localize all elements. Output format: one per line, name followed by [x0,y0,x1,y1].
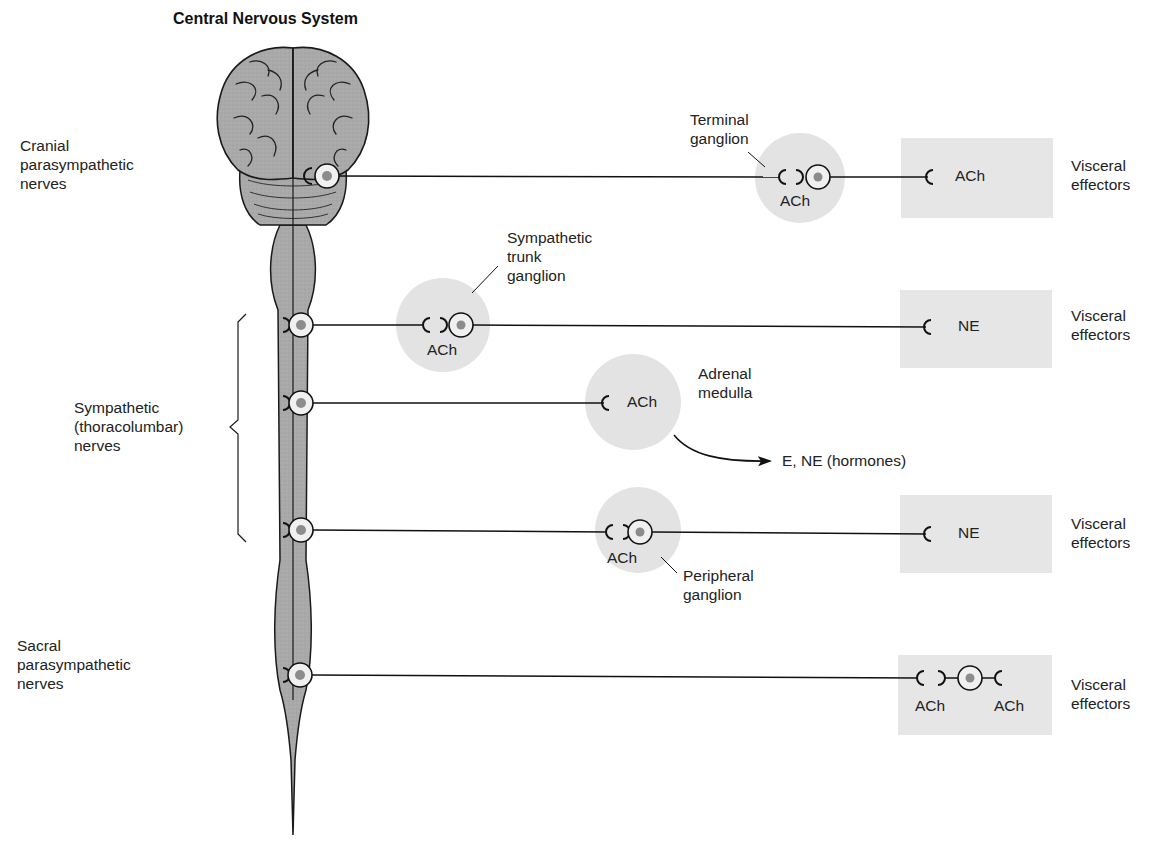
label-visceral-effectors: Visceral effectors [1071,514,1130,552]
label-peripheral-ganglion: Peripheral ganglion [683,566,754,604]
transmitter-ach: ACh [915,697,945,715]
pathway-sacral [283,663,1002,690]
label-sympathetic-trunk-ganglion: Sympathetic trunk ganglion [507,228,592,285]
label-sympathetic-thoracolumbar: Sympathetic (thoracolumbar) nerves [74,398,183,455]
transmitter-ne: NE [958,524,980,542]
transmitter-ne: NE [958,317,980,335]
label-terminal-ganglion: Terminal ganglion [690,110,749,148]
sympathetic-bracket [230,314,246,542]
label-hormones-output: E, NE (hormones) [782,452,906,470]
transmitter-ach: ACh [427,341,457,359]
label-cranial-parasympathetic: Cranial parasympathetic nerves [20,136,134,193]
pathway-sympathetic-trunk [283,266,931,337]
hormone-arrow [674,435,770,461]
label-visceral-effectors: Visceral effectors [1071,306,1130,344]
transmitter-ach: ACh [780,192,810,210]
spinal-cord [271,150,316,835]
label-visceral-effectors: Visceral effectors [1071,675,1130,713]
label-sacral-parasympathetic: Sacral parasympathetic nerves [17,636,131,693]
transmitter-ach: ACh [955,167,985,185]
brain [217,47,369,225]
diagram-title: Central Nervous System [173,10,358,28]
pathway-adrenal [283,391,770,461]
transmitter-ach: ACh [607,549,637,567]
label-adrenal-medulla: Adrenal medulla [698,364,752,402]
transmitter-ach: ACh [994,697,1024,715]
label-visceral-effectors: Visceral effectors [1071,156,1130,194]
transmitter-ach: ACh [627,393,657,411]
